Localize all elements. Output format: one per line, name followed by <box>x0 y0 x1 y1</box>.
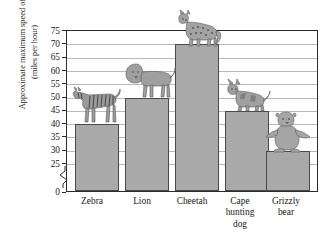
bar-grizzly-bear[interactable] <box>266 151 310 191</box>
grizzly-bear-icon <box>264 109 316 153</box>
x-axis-label-grizzly-bear: Grizzly bear <box>258 196 314 219</box>
y-tick-label-50: 50 <box>36 93 60 102</box>
y-tick-label-25: 25 <box>36 160 60 169</box>
x-label-line: bear <box>258 207 314 218</box>
y-tick-label-55: 55 <box>36 80 60 89</box>
bar-cheetah[interactable] <box>175 44 219 191</box>
x-label-line: Lion <box>133 196 151 206</box>
bar-cape-hunting-dog[interactable] <box>225 111 269 191</box>
y-tick-label-70: 70 <box>36 40 60 49</box>
x-label-line: dog <box>213 219 267 230</box>
y-tick-label-40: 40 <box>36 120 60 129</box>
bar-zebra[interactable] <box>75 124 119 191</box>
lion-icon <box>122 58 176 100</box>
x-label-line: Zebra <box>81 196 103 206</box>
x-axis-label-cheetah: Cheetah <box>164 196 220 207</box>
y-tick-label-45: 45 <box>36 106 60 115</box>
x-axis-label-zebra: Zebra <box>64 196 120 207</box>
plot-area <box>66 30 318 192</box>
bar-lion[interactable] <box>125 98 169 192</box>
y-tick-label-30: 30 <box>36 146 60 155</box>
cheetah-icon <box>173 8 223 48</box>
x-label-line: Cheetah <box>177 196 208 206</box>
y-tick-label-75: 75 <box>36 27 60 36</box>
y-tick-label-60: 60 <box>36 67 60 76</box>
y-tick-label-35: 35 <box>36 133 60 142</box>
x-label-line: Grizzly <box>258 196 314 207</box>
zebra-icon <box>69 80 125 126</box>
y-tick-label-0: 0 <box>36 188 60 197</box>
y-tick-label-65: 65 <box>36 53 60 62</box>
x-axis-label-lion: Lion <box>114 196 170 207</box>
bar-chart-figure: Approximate maximum speed of animals (mi… <box>0 0 331 249</box>
